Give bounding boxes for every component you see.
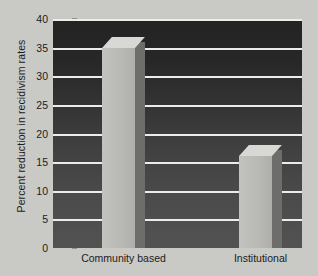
y-axis-tick-label: 35 — [22, 42, 48, 54]
bar — [102, 37, 145, 248]
x-axis-category-label: Community based — [81, 252, 166, 264]
plot-area — [53, 19, 302, 248]
y-axis-tick-label: 0 — [22, 242, 48, 254]
bar-side-face — [272, 150, 282, 248]
y-axis-tick-label: 20 — [22, 128, 48, 140]
gridline — [53, 48, 302, 50]
bar-front-face — [102, 48, 135, 248]
gridline — [53, 134, 302, 136]
bar-front-face — [239, 156, 272, 248]
y-axis-tick-label: 10 — [22, 185, 48, 197]
x-axis-category-label: Institutional — [234, 252, 287, 264]
bar-side-face — [135, 42, 145, 248]
y-axis-tick-label: 5 — [22, 213, 48, 225]
y-axis-tick-label: 25 — [22, 99, 48, 111]
gridline — [53, 76, 302, 78]
y-axis-tick-label: 15 — [22, 156, 48, 168]
y-axis-tick-label: 30 — [22, 70, 48, 82]
gridline — [53, 19, 302, 21]
y-axis-tick-label: 40 — [22, 13, 48, 25]
y-axis-tick-labels: 0510152025303540 — [22, 0, 48, 276]
bar — [239, 145, 282, 248]
bar-chart: Percent reduction in recidivism rates 05… — [0, 0, 318, 276]
gridline — [53, 105, 302, 107]
x-axis-category-labels: Community basedInstitutional — [53, 252, 302, 272]
